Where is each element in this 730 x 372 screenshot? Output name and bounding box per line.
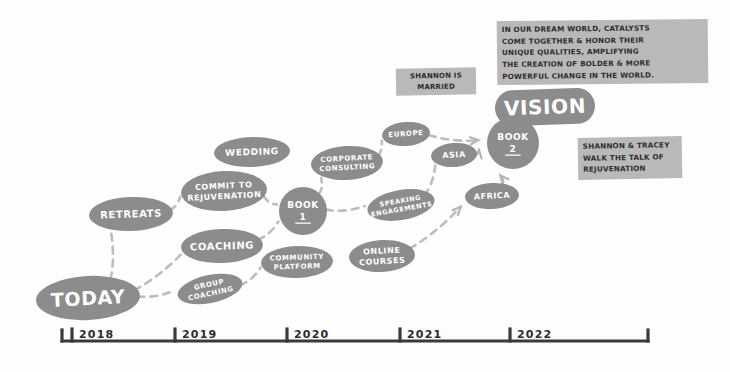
axis-tick-2022: 2022 [510,328,552,341]
roadmap-diagram-canvas: TODAYRETREATSCOMMIT TOREJUVENATIONWEDDIN… [0,0,730,372]
axis-tick-2020: 2020 [287,328,329,341]
tick-label-2020: 2020 [294,328,329,341]
timeline-axis: 20182019202020212022 [0,0,730,372]
tick-label-2021: 2021 [407,328,442,341]
tick-label-2022: 2022 [517,328,552,341]
tick-label-2018: 2018 [79,328,114,341]
axis-tick-2018: 2018 [72,328,114,341]
tick-label-2019: 2019 [182,328,217,341]
axis-tick-2019: 2019 [175,328,217,341]
axis-tick-2021: 2021 [400,328,442,341]
